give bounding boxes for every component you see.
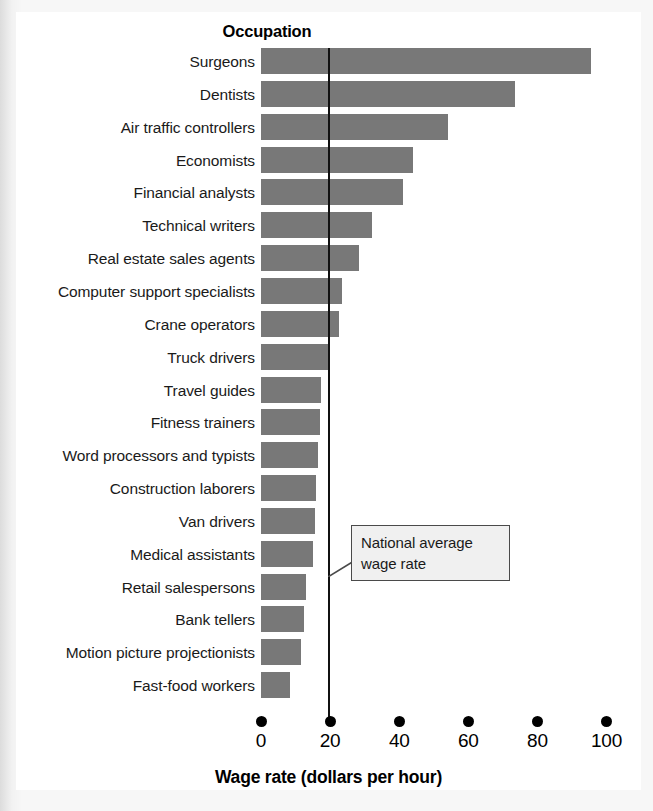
bar-label-real-estate-sales-agents: Real estate sales agents [88,245,255,271]
bar-economists [261,147,413,173]
page-title: Occupation [147,22,387,41]
bar-real-estate-sales-agents [261,245,359,271]
bar-label-air-traffic-controllers: Air traffic controllers [121,114,255,140]
bar-crane-operators [261,311,339,337]
bar-air-traffic-controllers [261,114,448,140]
callout-line-2: wage rate [361,555,426,572]
bar-retail-salespersons [261,574,306,600]
figure-plate: Occupation SurgeonsDentistsAir traffic c… [16,12,641,790]
bar-bank-tellers [261,606,304,632]
bar-label-dentists: Dentists [200,81,255,107]
bar-surgeons [261,48,591,74]
bar-label-fast-food-workers: Fast-food workers [133,672,255,698]
bar-technical-writers [261,212,372,238]
bar-label-word-processors-and-typists: Word processors and typists [62,442,255,468]
bar-medical-assistants [261,541,313,567]
bar-dentists [261,81,515,107]
bar-label-surgeons: Surgeons [189,48,255,74]
callout-box: National average wage rate [351,525,510,581]
x-tick-dot-80 [532,716,543,727]
x-tick-dot-40 [394,716,405,727]
bar-van-drivers [261,508,315,534]
bar-motion-picture-projectionists [261,639,301,665]
callout-line-1: National average [361,534,473,551]
x-axis-title: Wage rate (dollars per hour) [16,767,641,788]
bar-label-technical-writers: Technical writers [142,212,255,238]
x-tick-dot-0 [256,716,267,727]
bar-travel-guides [261,377,321,403]
bar-label-economists: Economists [176,147,255,173]
x-tick-label-80: 80 [507,730,567,752]
scanned-page: Occupation SurgeonsDentistsAir traffic c… [0,0,653,811]
x-tick-label-0: 0 [231,730,291,752]
bar-label-medical-assistants: Medical assistants [130,541,255,567]
bar-label-construction-laborers: Construction laborers [110,475,255,501]
national-average-reference-line [328,48,330,720]
x-tick-label-60: 60 [438,730,498,752]
bar-label-retail-salespersons: Retail salespersons [122,574,255,600]
bar-label-bank-tellers: Bank tellers [175,606,255,632]
bar-label-truck-drivers: Truck drivers [167,344,255,370]
x-tick-dot-100 [601,716,612,727]
bar-financial-analysts [261,179,403,205]
x-tick-dot-60 [463,716,474,727]
bar-label-travel-guides: Travel guides [164,377,255,403]
bar-label-computer-support-specialists: Computer support specialists [58,278,255,304]
bar-label-fitness-trainers: Fitness trainers [151,409,255,435]
bar-truck-drivers [261,344,330,370]
x-tick-dot-20 [325,716,336,727]
bar-label-financial-analysts: Financial analysts [134,179,255,205]
bar-label-crane-operators: Crane operators [144,311,255,337]
bar-label-van-drivers: Van drivers [179,508,255,534]
bar-construction-laborers [261,475,316,501]
x-tick-label-100: 100 [577,730,637,752]
x-tick-label-20: 20 [300,730,360,752]
callout-text: National average wage rate [361,532,507,574]
x-tick-label-40: 40 [369,730,429,752]
bar-fast-food-workers [261,672,290,698]
bar-fitness-trainers [261,409,320,435]
bar-label-motion-picture-projectionists: Motion picture projectionists [66,639,255,665]
bar-word-processors-and-typists [261,442,318,468]
